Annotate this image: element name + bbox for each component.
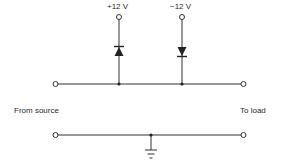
junction-dot <box>149 133 152 136</box>
junction-dot <box>180 82 183 85</box>
diode-d1-icon <box>114 47 124 57</box>
negative-supply-label: −12 V <box>170 3 191 11</box>
positive-supply-terminal <box>117 15 122 20</box>
junction-dot <box>117 82 120 85</box>
output-terminal-top <box>241 82 246 87</box>
negative-supply-terminal <box>180 15 185 20</box>
output-label: To load <box>240 107 266 115</box>
input-terminal-bottom <box>53 133 58 138</box>
output-terminal-bottom <box>241 133 246 138</box>
diode-d2-icon <box>177 47 187 57</box>
input-label: From source <box>14 107 59 115</box>
circuit-diagram: +12 V −12 V From source To load <box>0 0 282 167</box>
input-terminal-top <box>53 82 58 87</box>
circuit-schematic <box>0 0 282 167</box>
positive-supply-label: +12 V <box>107 3 128 11</box>
ground-icon <box>145 150 157 158</box>
